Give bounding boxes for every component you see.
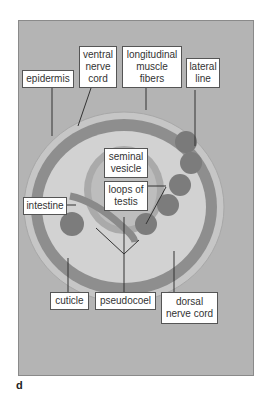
label-intestine: intestine <box>23 197 67 215</box>
panel-letter: d <box>16 379 23 391</box>
label-cuticle: cuticle <box>50 292 89 310</box>
label-loops-of-testis: loops of testis <box>104 181 148 211</box>
label-dorsal-nerve-cord: dorsal nerve cord <box>161 292 218 324</box>
label-epidermis: epidermis <box>22 70 74 88</box>
label-ventral-nerve-cord: ventral nerve cord <box>79 46 117 88</box>
label-lateral-line: lateral line <box>186 58 220 88</box>
label-pseudocoel: pseudocoel <box>95 292 156 310</box>
label-seminal-vesicle: seminal vesicle <box>104 148 148 178</box>
label-longitudinal-muscle-fibers: longitudinal muscle fibers <box>122 46 182 88</box>
